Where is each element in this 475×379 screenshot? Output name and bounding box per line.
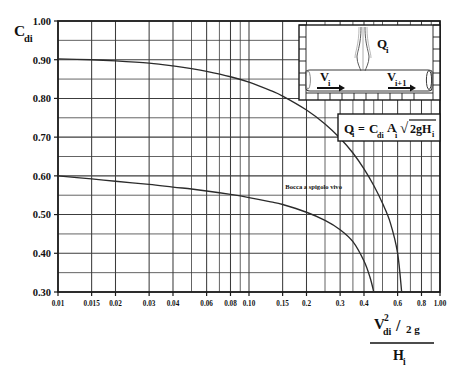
equation-radicand-main: 2gH	[410, 122, 432, 136]
equation-equals-sign: =	[358, 122, 365, 136]
x-tick-label: 0.10	[243, 300, 256, 308]
equation-discharge-coefficient-subscript: di	[377, 131, 384, 140]
x-tick-label: 0.02	[109, 300, 122, 308]
y-tick-label: 0.80	[33, 93, 51, 104]
y-tick-label: 1.00	[33, 16, 51, 27]
equation-radical-sign: √	[400, 120, 409, 136]
x-tick-label: 0.01	[52, 300, 65, 308]
x-axis-label-numerator-tail: 2 g	[406, 323, 420, 335]
y-tick-label: 0.60	[33, 171, 51, 182]
x-axis-label-numerator-superscript: 2	[384, 313, 389, 323]
x-axis-label-numerator-subscript: di	[383, 326, 392, 337]
x-tick-label: 0.08	[224, 300, 237, 308]
x-tick-label: 0.4	[360, 300, 369, 308]
x-tick-label: 0.06	[200, 300, 213, 308]
chart-figure: 0.010.0150.020.030.040.060.080.100.150.2…	[0, 0, 475, 379]
x-tick-label: 0.3	[336, 300, 345, 308]
x-tick-label: 1.00	[434, 300, 447, 308]
x-tick-label: 0.03	[143, 300, 156, 308]
x-axis-label-denominator-subscript: i	[403, 357, 406, 367]
x-axis-label-inline-slash: /	[395, 317, 401, 334]
x-tick-label: 0.2	[302, 300, 311, 308]
y-tick-label: 0.40	[33, 248, 51, 259]
y-tick-label: 0.90	[33, 55, 51, 66]
curve-label-sharp-edged-orifice: Bocca a spigolo vivo	[285, 183, 342, 190]
y-tick-label: 0.50	[33, 209, 51, 220]
x-tick-label: 0.04	[167, 300, 180, 308]
x-tick-label: 0.8	[417, 300, 426, 308]
x-tick-label: 0.015	[84, 300, 101, 308]
x-tick-label: 0.6	[393, 300, 402, 308]
x-tick-label: 0.15	[276, 300, 289, 308]
curve-annotations: Bocca a spigolo vivo	[285, 183, 342, 190]
inset-schematic: Q i V i V i+1	[299, 25, 440, 100]
inset-right-velocity-subscript: i+1	[395, 78, 406, 88]
y-tick-label: 0.70	[33, 132, 51, 143]
chart-svg: 0.010.0150.020.030.040.060.080.100.150.2…	[0, 0, 475, 379]
y-tick-label: 0.30	[33, 287, 51, 298]
y-axis-label-subscript: di	[24, 33, 33, 44]
equation-box: Q i = C di A i √ 2gH i	[338, 114, 440, 141]
